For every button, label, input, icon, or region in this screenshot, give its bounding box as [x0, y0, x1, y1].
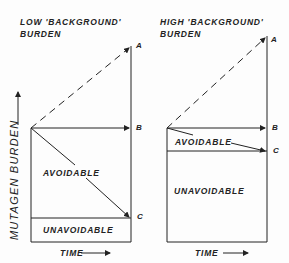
left-point-c: C [137, 212, 143, 221]
right-point-a: A [271, 35, 277, 44]
y-axis-label: MUTAGEN BURDEN [8, 120, 20, 241]
left-avoidable-label: AVOIDABLE [43, 168, 100, 178]
left-unavoidable-label: UNAVOIDABLE [43, 225, 114, 235]
left-point-a: A [136, 41, 142, 50]
right-point-b: B [272, 123, 278, 132]
right-panel-title-line2: BURDEN [160, 29, 201, 39]
mutagen-burden-diagram: LOW 'BACKGROUND' BURDEN A B C AVOIDABLE … [0, 0, 289, 263]
right-point-c: C [273, 146, 279, 155]
left-point-b: B [136, 123, 142, 132]
left-time-label: TIME [60, 248, 84, 258]
right-panel-title-line1: HIGH 'BACKGROUND' [160, 17, 264, 27]
left-panel-title-line2: BURDEN [20, 29, 61, 39]
right-time-label: TIME [195, 248, 219, 258]
right-unavoidable-label: UNAVOIDABLE [174, 186, 245, 196]
right-avoidable-label: AVOIDABLE [175, 137, 232, 147]
diagram-lines [0, 0, 289, 263]
left-panel-title-line1: LOW 'BACKGROUND' [20, 17, 121, 27]
